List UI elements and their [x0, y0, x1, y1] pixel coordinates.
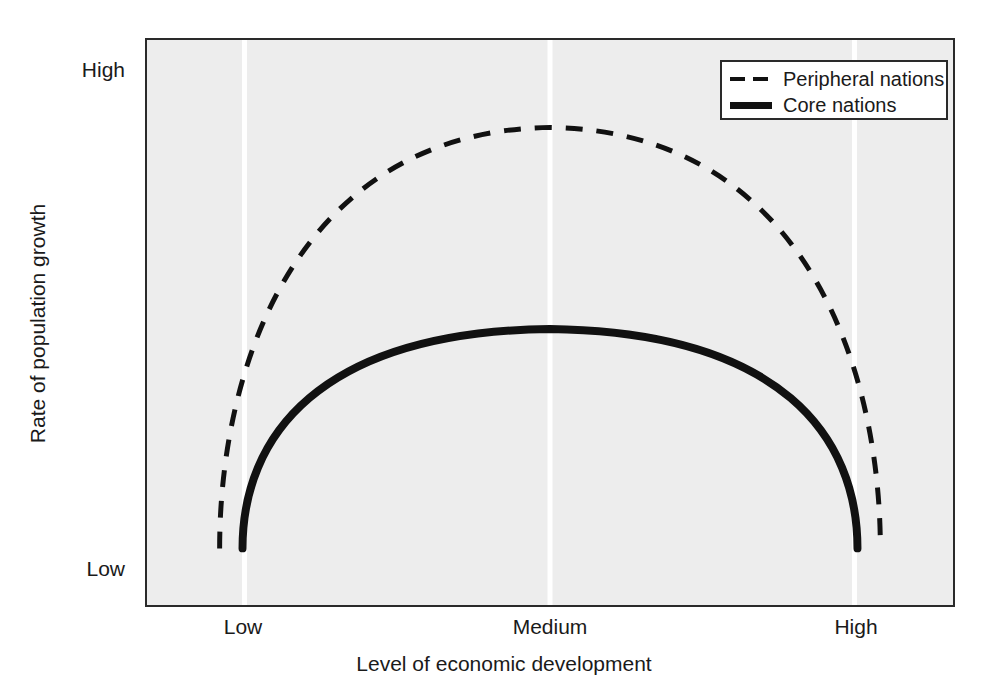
legend-item-core-nations: Core nations	[730, 92, 946, 118]
plot-area: Peripheral nations Core nations	[145, 38, 955, 607]
x-axis-title: Level of economic development	[0, 653, 998, 674]
gridlines	[245, 40, 855, 605]
x-axis-tick-medium: Medium	[470, 616, 630, 637]
solid-line-icon	[730, 99, 774, 111]
x-axis-tick-low: Low	[163, 616, 323, 637]
y-axis-tick-high: High	[15, 59, 125, 80]
plot-svg	[147, 40, 953, 605]
y-axis-title: Rate of population growth	[27, 174, 48, 474]
y-axis-tick-low: Low	[15, 558, 125, 579]
legend: Peripheral nations Core nations	[720, 60, 948, 120]
legend-item-peripheral-nations: Peripheral nations	[730, 66, 946, 92]
chart-figure: Peripheral nations Core nations High Low…	[0, 0, 998, 698]
x-axis-tick-high: High	[776, 616, 936, 637]
dashed-line-icon	[730, 73, 774, 85]
legend-label-peripheral-nations: Peripheral nations	[783, 68, 944, 90]
legend-label-core-nations: Core nations	[783, 94, 896, 116]
